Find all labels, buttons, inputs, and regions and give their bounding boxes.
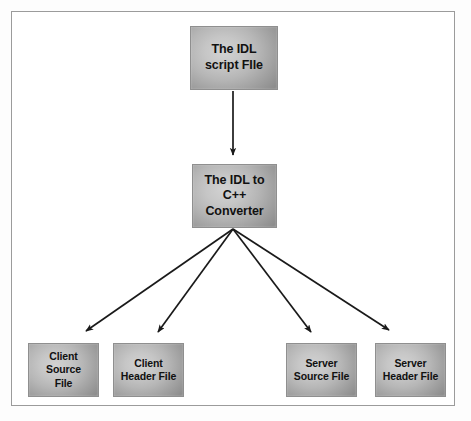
node-client-source-file-label: Client Source File	[29, 350, 98, 389]
node-idl-script-file-label: The IDL script FIle	[202, 42, 266, 73]
node-server-source-file: Server Source File	[286, 343, 357, 397]
node-server-header-file: Server Header File	[375, 343, 446, 397]
node-idl-to-cpp-converter: The IDL to C++ Converter	[192, 164, 277, 228]
node-idl-script-file: The IDL script FIle	[190, 26, 278, 90]
diagram-canvas: The IDL script FIle The IDL to C++ Conve…	[0, 0, 471, 421]
node-client-header-file-label: Client Header File	[118, 357, 180, 383]
node-idl-to-cpp-converter-label: The IDL to C++ Converter	[193, 173, 276, 220]
node-server-header-file-label: Server Header File	[380, 357, 442, 383]
node-client-source-file: Client Source File	[28, 343, 99, 397]
node-client-header-file: Client Header File	[113, 343, 184, 397]
node-server-source-file-label: Server Source File	[291, 357, 353, 383]
